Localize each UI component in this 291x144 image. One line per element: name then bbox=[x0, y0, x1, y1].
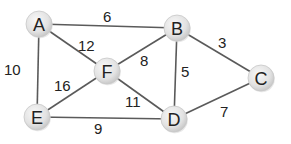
node-a: A bbox=[26, 11, 53, 38]
edge-weight-label: 5 bbox=[181, 63, 189, 80]
edge-weight-label: 9 bbox=[94, 120, 102, 137]
edge-weight-label: 7 bbox=[220, 103, 228, 120]
node-e: E bbox=[24, 104, 51, 131]
edge-weight-label: 3 bbox=[218, 34, 226, 51]
edge-weight-label: 11 bbox=[125, 93, 141, 110]
edge-weight-label: 10 bbox=[4, 61, 21, 78]
edge-weight-label: 6 bbox=[103, 8, 111, 25]
graph-diagram: 61210835161197 ABCFED bbox=[0, 0, 291, 144]
node-label: B bbox=[171, 19, 183, 39]
node-label: E bbox=[31, 108, 43, 128]
node-c: C bbox=[248, 65, 275, 92]
edge-weight-label: 8 bbox=[140, 52, 148, 69]
node-f: F bbox=[94, 58, 121, 85]
node-b: B bbox=[164, 15, 191, 42]
node-label: A bbox=[33, 15, 45, 35]
edge-weight-label: 16 bbox=[54, 77, 71, 94]
node-d: D bbox=[161, 106, 188, 133]
edge-d-c bbox=[174, 78, 261, 119]
edge-e-d bbox=[37, 117, 174, 119]
nodes-layer: ABCFED bbox=[24, 11, 275, 133]
node-label: D bbox=[168, 110, 181, 130]
node-label: C bbox=[255, 69, 268, 89]
node-label: F bbox=[102, 62, 113, 82]
edge-weight-label: 12 bbox=[78, 37, 95, 54]
